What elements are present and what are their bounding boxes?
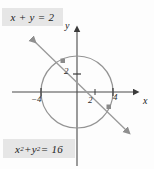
tick-label-x-4: 4	[113, 92, 118, 102]
intersection-point-lower-right	[107, 105, 112, 110]
math-figure: x + y = 2 x2 + y2 = 16 −4 2 4 2 x y	[0, 0, 154, 169]
line-equation-label: x + y = 2	[2, 8, 63, 26]
circle-equation-tail: = 16	[41, 143, 63, 155]
circle-equation-label: x2 + y2 = 16	[3, 139, 75, 158]
tick-label-x-neg4: −4	[31, 94, 42, 104]
tick-label-x-2: 2	[88, 95, 93, 105]
intersection-point-upper-left	[61, 59, 66, 64]
tick-label-y-2: 2	[64, 66, 69, 76]
y-axis-label: y	[65, 20, 69, 31]
x-axis-label: x	[143, 95, 147, 106]
circle-equation-operator: +	[24, 143, 32, 155]
line-equation-text: x + y = 2	[11, 11, 55, 23]
